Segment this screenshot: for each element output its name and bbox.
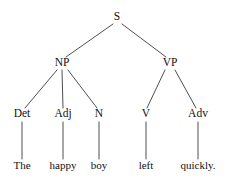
leaf-word-the: The	[13, 159, 30, 171]
edge-vp-v	[147, 70, 165, 108]
node-v: V	[142, 107, 151, 119]
edge-np-adj	[62, 70, 63, 108]
edge-s-vp	[122, 24, 166, 57]
edge-vp-adv	[175, 70, 196, 108]
node-s: S	[114, 10, 120, 22]
leaf-word-quickly: quickly.	[180, 159, 215, 171]
leaf-word-left: left	[139, 159, 154, 171]
edge-np-det	[25, 70, 57, 108]
leaf-word-happy: happy	[50, 159, 77, 171]
edge-np-n	[68, 70, 97, 108]
tree-node-labels: S NP VP Det Adj N V Adv The happy boy le…	[13, 10, 215, 171]
syntax-tree-figure: S NP VP Det Adj N V Adv The happy boy le…	[0, 0, 230, 178]
node-adj: Adj	[54, 107, 71, 120]
node-n: N	[95, 107, 104, 119]
syntax-tree-canvas: S NP VP Det Adj N V Adv The happy boy le…	[0, 0, 230, 178]
node-np: NP	[55, 56, 70, 68]
edge-s-np	[66, 24, 113, 57]
node-adv: Adv	[188, 107, 208, 119]
node-vp: VP	[163, 56, 178, 68]
tree-edges	[22, 24, 198, 159]
leaf-word-boy: boy	[91, 159, 108, 171]
node-det: Det	[14, 107, 31, 119]
